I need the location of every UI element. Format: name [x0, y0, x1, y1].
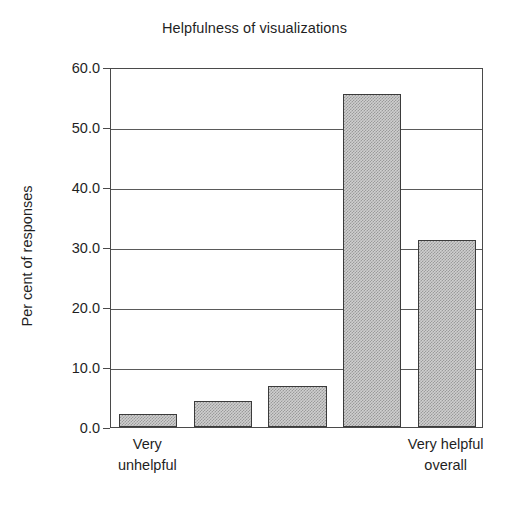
y-tick-mark-40.0	[103, 188, 110, 189]
bar-4	[343, 94, 401, 427]
gridline-50.0	[111, 129, 482, 130]
y-tick-mark-50.0	[103, 128, 110, 129]
x-label-line2: overall	[371, 455, 509, 476]
y-tick-mark-10.0	[103, 368, 110, 369]
chart-title: Helpfulness of visualizations	[0, 20, 509, 36]
bar-3	[268, 386, 326, 427]
y-axis-tick-marks	[0, 68, 110, 428]
x-label-very-unhelpful: Veryunhelpful	[72, 434, 222, 476]
y-tick-mark-20.0	[103, 308, 110, 309]
x-label-line2: unhelpful	[72, 455, 222, 476]
bar-5	[418, 240, 476, 427]
y-tick-mark-0.0	[103, 428, 110, 429]
y-tick-mark-60.0	[103, 68, 110, 69]
x-axis-category-labels: VeryunhelpfulVery helpfuloverall	[110, 434, 483, 494]
x-label-line1: Very	[133, 436, 162, 452]
plot-area	[110, 68, 483, 428]
y-tick-mark-30.0	[103, 248, 110, 249]
bar-1	[119, 414, 177, 427]
bar-2	[194, 401, 252, 427]
x-label-very-helpful-overall: Very helpfuloverall	[371, 434, 509, 476]
x-label-line1: Very helpful	[408, 436, 484, 452]
gridline-40.0	[111, 189, 482, 190]
bar-chart-figure: Helpfulness of visualizations Per cent o…	[0, 0, 509, 508]
